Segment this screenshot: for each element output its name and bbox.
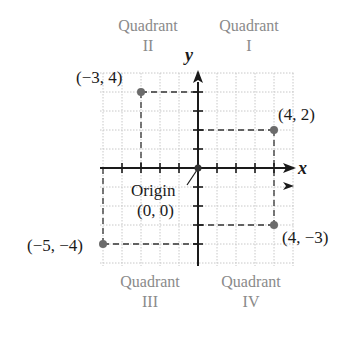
quadrant-iii-label: Quadrant III	[105, 272, 195, 312]
y-axis-arrow-icon	[193, 70, 203, 83]
quadrant-i-word: Quadrant	[204, 16, 294, 36]
point-4-neg3	[270, 221, 278, 229]
x-axis-label: x	[298, 159, 307, 177]
quadrant-iv-word: Quadrant	[206, 272, 296, 292]
quadrant-ii-numeral: II	[103, 36, 193, 56]
quadrant-i-numeral: I	[204, 36, 294, 56]
origin-coords-label: (0, 0)	[137, 202, 174, 219]
point-label-neg3-4: (−3, 4)	[76, 69, 122, 86]
point-origin	[195, 165, 202, 172]
quadrant-iii-word: Quadrant	[105, 272, 195, 292]
quadrant-i-label: Quadrant I	[204, 16, 294, 56]
quadrant-iv-label: Quadrant IV	[206, 272, 296, 312]
axes	[100, 82, 287, 266]
quadrant-ii-word: Quadrant	[103, 16, 193, 36]
direction-arrow-icon	[283, 182, 294, 190]
quadrant-iii-numeral: III	[105, 292, 195, 312]
quadrant-iv-numeral: IV	[206, 292, 296, 312]
point-neg5-neg4	[99, 240, 107, 248]
coordinate-plane-figure: y x Quadrant II Quadrant I Quadrant III …	[0, 0, 350, 341]
point-neg3-4	[137, 88, 145, 96]
origin-leader-line	[187, 170, 197, 185]
origin-label: Origin	[131, 182, 175, 199]
point-label-4-2: (4, 2)	[278, 106, 315, 123]
point-label-4-neg3: (4, −3)	[282, 229, 328, 246]
point-4-2	[270, 126, 278, 134]
quadrant-ii-label: Quadrant II	[103, 16, 193, 56]
point-label-neg5-neg4: (−5, −4)	[27, 237, 83, 254]
